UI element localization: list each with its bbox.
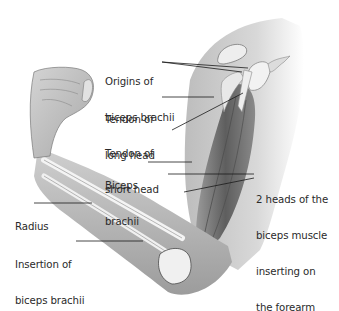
label-two-heads-line4: the forearm	[256, 302, 328, 311]
label-two-heads-line2: biceps muscle	[256, 230, 328, 242]
label-insertion: Insertion of biceps brachii	[15, 235, 84, 311]
label-biceps-line2: brachii	[105, 216, 139, 228]
label-insertion-line1: Insertion of	[15, 259, 84, 271]
label-two-heads-line1: 2 heads of the	[256, 194, 328, 206]
label-radius-line1: Radius	[15, 221, 49, 233]
label-two-heads: 2 heads of the biceps muscle inserting o…	[256, 170, 328, 311]
label-biceps: Biceps brachii	[105, 156, 139, 240]
fist	[30, 67, 93, 158]
label-origins-line1: Origins of	[105, 76, 174, 88]
label-two-heads-line3: inserting on	[256, 266, 328, 278]
label-insertion-line2: biceps brachii	[15, 295, 84, 307]
label-biceps-line1: Biceps	[105, 180, 139, 192]
